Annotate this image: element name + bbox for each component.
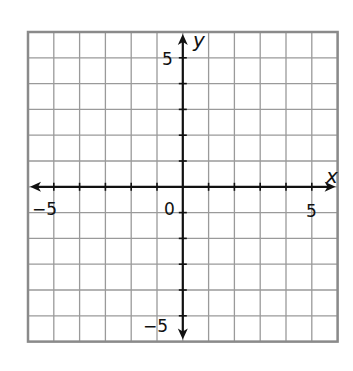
x-tick-label-pos5: 5 bbox=[306, 203, 317, 220]
x-axis-label: x bbox=[326, 166, 338, 186]
origin-label: 0 bbox=[164, 201, 175, 218]
y-tick-label-neg5: −5 bbox=[143, 318, 168, 335]
y-tick-label-pos5: 5 bbox=[162, 51, 173, 68]
y-axis-label: y bbox=[193, 30, 205, 50]
coordinate-plane bbox=[0, 0, 353, 371]
axes bbox=[30, 34, 336, 340]
x-tick-label-neg5: −5 bbox=[32, 201, 57, 218]
